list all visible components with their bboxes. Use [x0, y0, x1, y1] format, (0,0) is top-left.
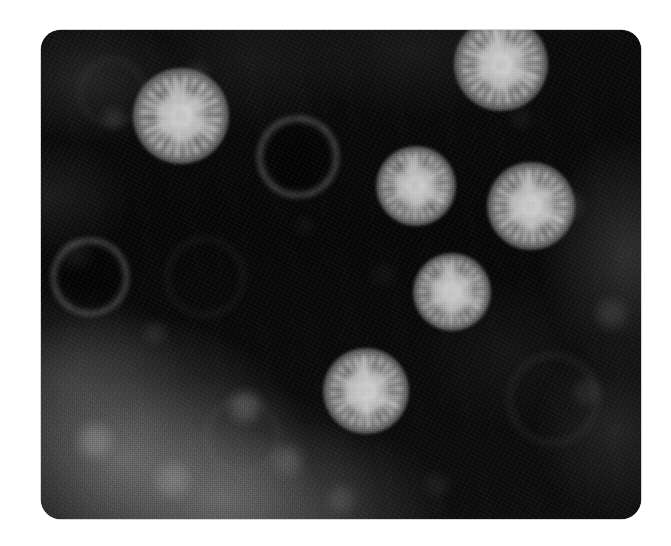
figure-page: [0, 0, 671, 546]
film-grain-layer-fine: [41, 30, 641, 519]
electron-micrograph-plate: [41, 30, 641, 519]
